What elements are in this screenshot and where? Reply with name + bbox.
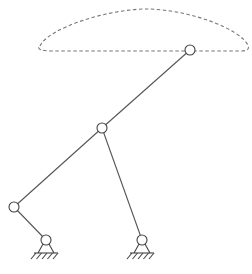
link-rocker — [102, 128, 142, 240]
coupler-joint-joint-icon — [97, 123, 107, 133]
link-coupler-extension — [102, 50, 190, 128]
joints-group — [9, 45, 195, 245]
coupler-point-joint-icon — [185, 45, 195, 55]
links-group — [14, 50, 190, 240]
ground-right-support-icon — [127, 244, 154, 259]
ground-supports-group — [31, 244, 154, 259]
linkage-diagram — [0, 0, 252, 274]
link-crank — [14, 207, 46, 240]
link-coupler — [14, 128, 102, 207]
ground-pivot-right-joint-icon — [137, 235, 147, 245]
ground-pivot-left-joint-icon — [41, 235, 51, 245]
ground-left-support-icon — [31, 244, 58, 259]
crank-joint-joint-icon — [9, 202, 19, 212]
coupler-curve-path — [39, 9, 249, 51]
